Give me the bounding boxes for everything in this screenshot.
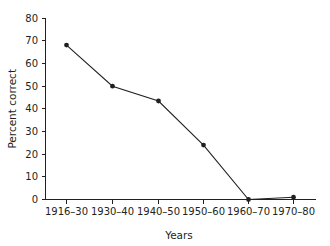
y-axis-ticks xyxy=(42,18,46,199)
x-tick-label-2: 1940–50 xyxy=(137,206,180,217)
y-tick-label-80: 80 xyxy=(25,13,38,24)
x-axis-ticks xyxy=(67,200,294,204)
y-tick-label-40: 40 xyxy=(25,103,38,114)
x-tick-label-5: 1970–80 xyxy=(272,206,315,217)
y-axis-tick-labels: 0 10 20 30 40 50 60 70 80 xyxy=(25,13,38,205)
y-tick-label-10: 10 xyxy=(25,171,38,182)
series-line-percent-correct xyxy=(67,45,294,199)
data-point-1940-50 xyxy=(156,99,161,104)
x-tick-label-0: 1916–30 xyxy=(45,206,88,217)
x-axis-title: Years xyxy=(164,229,193,241)
data-point-1916-30 xyxy=(64,43,69,48)
x-axis-tick-labels: 1916–30 1930–40 1940–50 1950–60 1960–70 … xyxy=(45,206,315,217)
x-tick-label-4: 1960–70 xyxy=(227,206,270,217)
y-tick-label-60: 60 xyxy=(25,58,38,69)
line-chart: 0 10 20 30 40 50 60 70 80 1916–30 1930–4… xyxy=(0,0,330,246)
data-point-1970-80 xyxy=(291,195,296,200)
data-point-1960-70 xyxy=(246,197,251,202)
data-point-1930-40 xyxy=(110,84,115,89)
x-tick-label-1: 1930–40 xyxy=(91,206,134,217)
y-tick-label-20: 20 xyxy=(25,149,38,160)
y-axis-title: Percent correct xyxy=(6,69,18,149)
y-tick-label-50: 50 xyxy=(25,81,38,92)
y-tick-label-70: 70 xyxy=(25,35,38,46)
y-tick-label-0: 0 xyxy=(32,194,38,205)
x-tick-label-3: 1950–60 xyxy=(182,206,225,217)
data-point-1950-60 xyxy=(201,143,206,148)
chart-figure: 0 10 20 30 40 50 60 70 80 1916–30 1930–4… xyxy=(0,0,330,246)
y-tick-label-30: 30 xyxy=(25,126,38,137)
